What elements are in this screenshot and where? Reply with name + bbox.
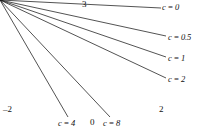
plot-figure	[0, 0, 206, 132]
y-axis-tick-label-top: 3	[82, 0, 87, 9]
curve-label-c0: c = 0	[162, 3, 179, 12]
curve-label-c8: c = 8	[103, 119, 120, 128]
x-axis-tick-label-left: –2	[3, 105, 12, 114]
leader-line-4	[0, 0, 68, 117]
plot-canvas	[0, 0, 206, 132]
curve-label-c1: c = 1	[168, 54, 185, 63]
leader-line-5	[0, 0, 110, 117]
leader-line-0	[0, 0, 161, 8]
x-axis-tick-label-right: 2	[159, 105, 164, 114]
leader-line-3	[0, 0, 166, 78]
curve-label-c4: c = 4	[58, 119, 75, 128]
annotation-leader-lines	[0, 0, 166, 117]
curve-label-c2: c = 2	[168, 75, 185, 84]
curve-label-c05: c = 0.5	[168, 33, 191, 42]
x-axis-tick-label-origin: 0	[90, 118, 95, 127]
